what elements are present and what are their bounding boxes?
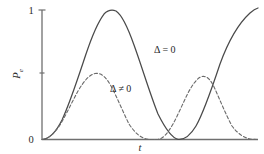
y-tick-label-bottom: 0 <box>28 134 33 145</box>
annotation-delta-nonzero: Δ ≠ 0 <box>110 83 131 94</box>
plot-figure: 1 0 Pe t Δ = 0 Δ ≠ 0 <box>0 0 264 154</box>
curve-delta-zero <box>42 8 258 140</box>
annotation-delta-zero: Δ = 0 <box>154 44 176 55</box>
y-tick-label-top: 1 <box>28 5 33 16</box>
y-axis-label: Pe <box>11 69 25 80</box>
curve-delta-nonzero <box>42 73 258 139</box>
svg-text:Pe: Pe <box>11 69 25 80</box>
y-axis-label-subscript: e <box>17 69 25 72</box>
x-axis-label: t <box>139 142 143 153</box>
